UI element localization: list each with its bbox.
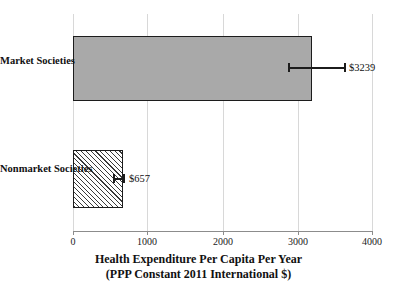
error-cap-right-market-societies — [344, 63, 346, 72]
category-label-market-societies-line1: Market — [0, 55, 34, 66]
x-tick-label-4000: 4000 — [342, 236, 397, 248]
x-tick-2000 — [223, 231, 224, 235]
error-cap-left-market-societies — [288, 63, 290, 72]
x-tick-label-0: 0 — [43, 236, 103, 248]
data-label-market-societies: $3239 — [349, 62, 375, 74]
x-tick-label-1000: 1000 — [117, 236, 177, 248]
gridline-4000 — [372, 14, 373, 231]
data-label-nonmarket-societies: $657 — [129, 173, 150, 185]
bar-chart: 0 1000 2000 3000 4000 $3239 $657 Market … — [0, 0, 397, 293]
bar-market-societies — [73, 36, 312, 101]
x-axis-title-line1: Health Expenditure Per Capita Per Year — [0, 252, 397, 267]
x-tick-label-3000: 3000 — [268, 236, 328, 248]
x-tick-4000 — [372, 231, 373, 235]
category-label-nonmarket-societies-line1: Nonmarket — [0, 163, 51, 174]
x-tick-1000 — [147, 231, 148, 235]
x-tick-0 — [73, 231, 74, 235]
x-axis-title: Health Expenditure Per Capita Per Year (… — [0, 252, 397, 282]
x-tick-label-2000: 2000 — [193, 236, 253, 248]
category-label-nonmarket-societies-line2: Societies — [54, 163, 93, 174]
category-label-market-societies-line2: Societies — [36, 55, 75, 66]
error-bar-market-societies — [289, 67, 345, 69]
x-axis-title-line2: (PPP Constant 2011 International $) — [0, 267, 397, 282]
error-cap-left-nonmarket-societies — [113, 174, 115, 183]
error-cap-right-nonmarket-societies — [123, 174, 125, 183]
x-tick-3000 — [298, 231, 299, 235]
category-label-nonmarket-societies: Nonmarket Societies — [0, 163, 70, 176]
category-label-market-societies: Market Societies — [0, 55, 70, 68]
